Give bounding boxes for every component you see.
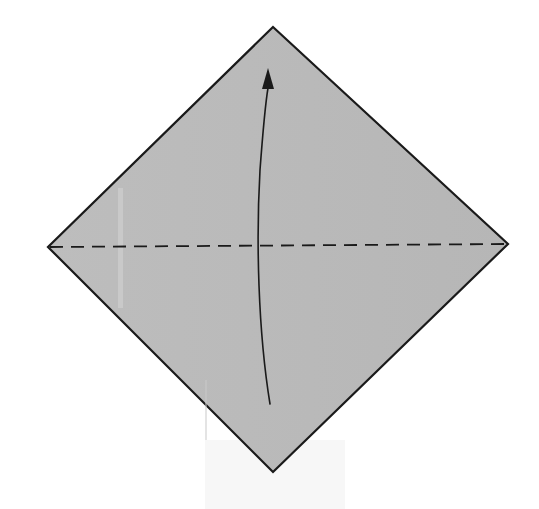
paper-streak — [205, 380, 207, 440]
origami-diagram — [0, 0, 539, 509]
paper-square — [48, 27, 508, 472]
paper-streak — [118, 188, 123, 308]
